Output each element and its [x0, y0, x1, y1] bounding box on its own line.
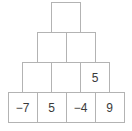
pyramid-cell[interactable]: 5 [37, 92, 67, 123]
pyramid-cell[interactable]: −4 [66, 92, 96, 123]
pyramid-cell[interactable] [22, 62, 52, 93]
pyramid-cell[interactable]: 9 [95, 92, 125, 123]
pyramid-cell[interactable] [51, 62, 81, 93]
pyramid-cell[interactable] [66, 32, 96, 63]
pyramid-row-2: 5 [0, 62, 132, 93]
pyramid-row-0 [0, 2, 132, 33]
pyramid-cell[interactable] [37, 32, 67, 63]
number-pyramid: 5 −7 5 −4 9 [0, 0, 132, 131]
pyramid-row-1 [0, 32, 132, 63]
pyramid-cell[interactable] [51, 2, 81, 33]
pyramid-cell[interactable]: −7 [8, 92, 38, 123]
pyramid-row-3: −7 5 −4 9 [0, 92, 132, 123]
pyramid-cell[interactable]: 5 [80, 62, 110, 93]
